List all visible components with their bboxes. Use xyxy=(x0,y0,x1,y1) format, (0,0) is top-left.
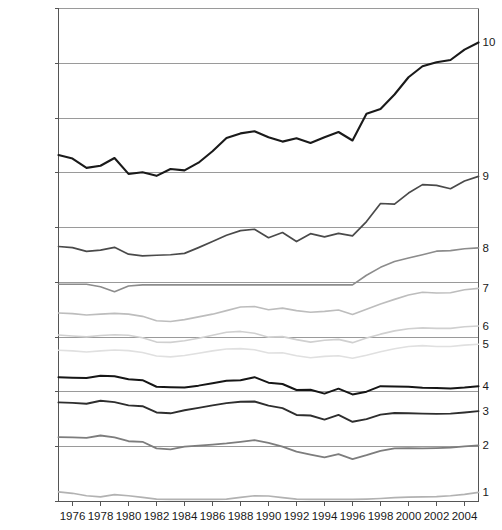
series-label-10: 10 xyxy=(483,36,496,48)
series-label-9: 9 xyxy=(483,170,489,182)
series-label-8: 8 xyxy=(483,242,489,254)
series-end-labels: 10987654321 xyxy=(0,0,502,530)
income-decile-line-chart: 0$ 20,000$ 40,000$ 60,000$ 80,000$ 100,0… xyxy=(0,0,502,530)
series-label-1: 1 xyxy=(483,486,489,498)
series-label-3: 3 xyxy=(483,405,489,417)
series-label-6: 6 xyxy=(483,320,489,332)
series-label-2: 2 xyxy=(483,439,489,451)
series-label-7: 7 xyxy=(483,282,489,294)
series-label-5: 5 xyxy=(483,338,489,350)
series-label-4: 4 xyxy=(483,380,489,392)
